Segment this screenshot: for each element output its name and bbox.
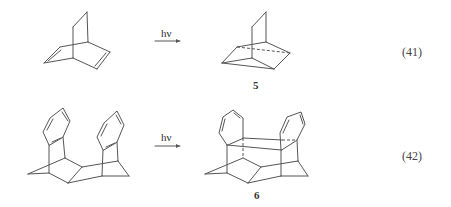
reactant-41-structure [44, 12, 110, 69]
equation-number-42: (42) [402, 149, 422, 164]
product-label-5: 5 [253, 79, 259, 91]
reaction-arrow-42 [155, 144, 180, 148]
equation-number-41: (41) [402, 45, 422, 60]
product-label-6: 6 [254, 189, 260, 201]
reactant-42-structure [28, 108, 129, 183]
reaction-arrow-41 [155, 39, 180, 43]
product-5-structure [222, 12, 290, 69]
product-6-structure [205, 110, 308, 183]
condition-42: hν [161, 131, 171, 143]
condition-41: hν [161, 27, 171, 39]
reaction-scheme [0, 0, 451, 207]
